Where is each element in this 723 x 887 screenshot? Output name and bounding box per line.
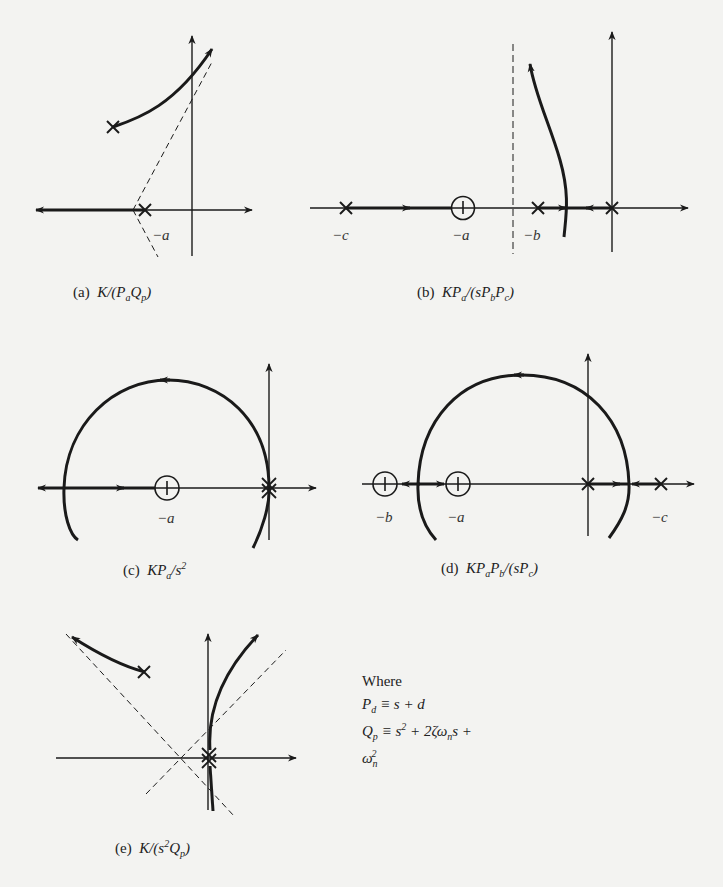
point-label: −a bbox=[452, 227, 470, 244]
caption-formula: K/(PaQp) bbox=[97, 284, 151, 300]
plot-d bbox=[362, 354, 694, 540]
plot-c bbox=[38, 364, 316, 548]
point-label: −b bbox=[375, 509, 393, 526]
plot-a bbox=[36, 36, 252, 257]
point-label: −a bbox=[152, 227, 170, 244]
locus-branch bbox=[113, 49, 212, 127]
locus-branch bbox=[72, 637, 145, 672]
locus-branch bbox=[210, 766, 213, 811]
caption-formula: K/(s2Qp) bbox=[139, 840, 190, 856]
caption-tag: (e) bbox=[115, 840, 132, 856]
caption-formula: KPa/s2 bbox=[147, 562, 186, 578]
definitions-block: Where Pd ≡ s + d Qp ≡ s2 + 2ζωns + ωn2 bbox=[362, 673, 490, 772]
point-label: −a bbox=[447, 509, 465, 526]
caption-e: (e) K/(s2Qp) bbox=[115, 838, 190, 859]
caption-tag: (a) bbox=[73, 284, 90, 300]
caption-tag: (b) bbox=[417, 284, 435, 300]
caption-formula: KPa/(sPbPc) bbox=[442, 284, 514, 300]
point-label: −c bbox=[332, 227, 349, 244]
plot-e bbox=[56, 634, 296, 816]
plot-b bbox=[310, 32, 688, 254]
point-label: −b bbox=[523, 227, 541, 244]
locus-branch bbox=[210, 635, 258, 750]
caption-b: (b) KPa/(sPbPc) bbox=[417, 284, 514, 303]
caption-d: (d) KPaPb/(sPc) bbox=[441, 560, 538, 579]
caption-c: (c) KPa/s2 bbox=[123, 560, 186, 581]
pd-definition: Pd ≡ s + d bbox=[362, 696, 490, 718]
qp-definition: Qp ≡ s2 + 2ζωns + ωn2 bbox=[362, 718, 490, 772]
asymptote bbox=[133, 62, 212, 210]
point-label: −a bbox=[157, 510, 175, 527]
caption-tag: (d) bbox=[441, 560, 459, 576]
asymptote bbox=[146, 650, 286, 794]
caption-formula: KPaPb/(sPc) bbox=[466, 560, 538, 576]
definitions-title: Where bbox=[362, 673, 490, 690]
caption-tag: (c) bbox=[123, 562, 140, 578]
asymptote bbox=[66, 634, 234, 816]
point-label: −c bbox=[651, 509, 668, 526]
caption-a: (a) K/(PaQp) bbox=[73, 284, 151, 303]
